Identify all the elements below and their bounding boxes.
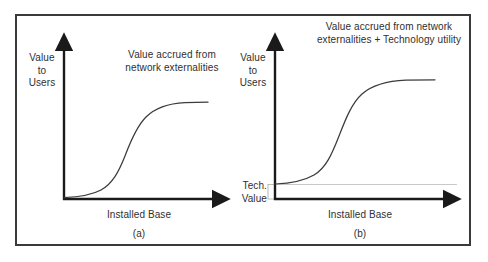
panel-b-caption: (b) — [320, 228, 400, 240]
panel-a-curve — [64, 102, 208, 197]
panel-b-curve — [275, 80, 435, 184]
chart-panel-a: Value to Users Value accrued from networ… — [17, 16, 245, 248]
panel-a-x-axis-label: Installed Base — [69, 209, 209, 221]
panel-a-caption: (a) — [99, 228, 179, 240]
figure-frame: Value to Users Value accrued from networ… — [15, 14, 471, 246]
panel-b-x-axis-label: Installed Base — [285, 209, 435, 221]
panel-b-annotation: Value accrued from network externalities… — [305, 21, 473, 46]
panel-b-tech-value-label: Tech. Value — [221, 180, 267, 205]
panel-a-y-axis-label: Value to Users — [22, 52, 62, 90]
panel-b-y-axis-label: Value to Users — [233, 52, 273, 90]
panel-a-annotation: Value accrued from network externalities — [102, 49, 242, 74]
chart-panel-b: Value to Users Value accrued from networ… — [245, 16, 473, 248]
figure-root: Value to Users Value accrued from networ… — [0, 0, 488, 262]
